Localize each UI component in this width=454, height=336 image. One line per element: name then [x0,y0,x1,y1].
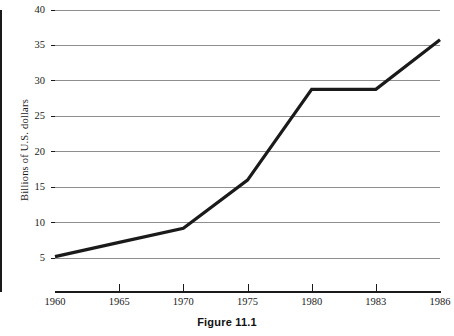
gridline [55,222,440,223]
y-axis-tick-label: 30 [17,75,45,86]
y-axis-tick-label: 5 [17,252,45,263]
gridline [55,151,440,152]
x-axis-tick-mark [376,284,377,292]
gridline [55,258,440,259]
y-axis-tick-mark [51,80,55,81]
x-axis-tick-label: 1986 [416,296,454,308]
x-axis-tick-label: 1965 [95,296,143,308]
y-axis-tick-label: 25 [17,110,45,121]
x-axis-tick-mark [248,284,249,292]
gridline [55,187,440,188]
y-axis-tick-label: 40 [17,4,45,15]
x-axis-tick-mark [312,284,313,292]
gridline [55,45,440,46]
gridline [55,80,440,81]
x-axis-tick-mark [119,284,120,292]
x-axis-tick-label: 1983 [352,296,400,308]
y-axis-tick-mark [51,258,55,259]
y-axis-tick-label: 10 [17,217,45,228]
x-axis-tick-label: 1970 [159,296,207,308]
y-axis-tick-label: 35 [17,39,45,50]
x-axis-tick-label: 1975 [224,296,272,308]
y-axis-tick-mark [51,187,55,188]
y-axis-tick-label: 20 [17,146,45,157]
y-axis-tick-mark [51,116,55,117]
y-axis-tick-mark [51,151,55,152]
y-axis-line [0,10,2,292]
figure-caption: Figure 11.1 [0,316,454,328]
gridline [55,116,440,117]
gridline [55,10,440,11]
y-axis-tick-mark [51,10,55,11]
x-axis-tick-label: 1960 [31,296,79,308]
y-axis-tick-mark [51,222,55,223]
data-series-line [0,0,454,336]
figure-container: Billions of U.S. dollars 510152025303540… [0,0,454,336]
y-axis-tick-mark [51,45,55,46]
x-axis-tick-mark [183,284,184,292]
y-axis-tick-label: 15 [17,181,45,192]
x-axis-tick-label: 1980 [288,296,336,308]
